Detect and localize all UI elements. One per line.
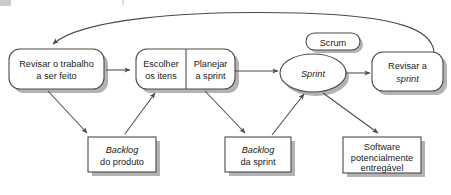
node-revisar-sprint[interactable]: Revisar a sprint: [372, 52, 443, 91]
node-escolher-planejar-group[interactable]: Escolher os itens Planejar a sprint: [136, 49, 235, 89]
node-backlog-produto[interactable]: Backlog do produto: [88, 137, 156, 172]
node-planejar-line1: Planejar: [194, 59, 228, 69]
node-software-line1: Software: [364, 142, 400, 152]
edge-backlog-sprint-to-sprint: [272, 94, 304, 135]
node-sprint[interactable]: Sprint: [280, 54, 346, 92]
scrum-process-diagram: Revisar o trabalho a ser feito Escolher …: [0, 0, 451, 195]
edge-backlog-produto-to-escolher: [125, 93, 155, 134]
node-scrum-label: Scrum: [320, 38, 347, 48]
node-sprint-label: Sprint: [301, 69, 325, 79]
node-revisar-sprint-line2: sprint: [396, 74, 419, 84]
node-escolher-line2: os itens: [145, 71, 177, 81]
node-software-entregavel[interactable]: Software potencialmente entregável: [343, 137, 421, 173]
node-backlog-sprint-line1: Backlog: [242, 145, 276, 155]
node-planejar-line2-pre: a: [195, 71, 203, 81]
node-software-line2: potencialmente: [351, 153, 413, 163]
node-revisar-trabalho[interactable]: Revisar o trabalho a ser feito: [9, 49, 104, 89]
edge-sprint-to-software: [323, 93, 378, 133]
edge-revisar-trabalho-to-backlog-produto: [48, 91, 87, 133]
node-backlog-sprint-line2: da sprint: [240, 157, 276, 167]
node-backlog-sprint[interactable]: Backlog da sprint: [225, 137, 291, 172]
edge-planejar-to-backlog-sprint: [205, 91, 245, 133]
node-software-line3: entregável: [361, 163, 404, 173]
node-backlog-sprint-line2-pre: da: [240, 157, 253, 167]
node-backlog-produto-line1: Backlog: [106, 145, 140, 155]
node-backlog-produto-line2: do produto: [100, 157, 144, 167]
node-backlog-sprint-line2-emphasis: sprint: [253, 157, 276, 167]
node-planejar-line2: a sprint: [195, 71, 226, 81]
edge-revisar-sprint-feedback-curve: [53, 12, 434, 52]
node-scrum[interactable]: Scrum: [306, 33, 360, 50]
node-escolher-line1: Escolher: [143, 59, 179, 69]
node-revisar-trabalho-line2: a ser feito: [36, 71, 76, 81]
node-revisar-sprint-line1: Revisar a: [388, 61, 428, 71]
node-planejar-line2-emphasis: sprint: [203, 71, 226, 81]
diagram-canvas: Revisar o trabalho a ser feito Escolher …: [0, 0, 451, 195]
node-revisar-trabalho-line1: Revisar o trabalho: [19, 59, 94, 69]
